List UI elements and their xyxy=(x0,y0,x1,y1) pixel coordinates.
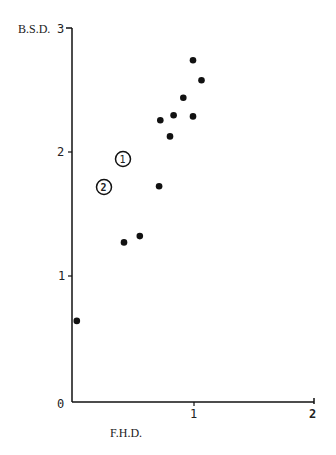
data-point xyxy=(180,94,187,101)
data-point xyxy=(137,233,144,240)
data-points xyxy=(74,57,205,324)
annotation-2: 2 xyxy=(97,180,112,195)
data-point xyxy=(167,133,174,140)
y-tick-label-3: 3 xyxy=(57,22,64,36)
y-tick-label-1: 1 xyxy=(58,269,65,283)
data-point xyxy=(170,112,177,119)
origin-label: 0 xyxy=(57,397,64,411)
svg-text:1: 1 xyxy=(120,154,126,165)
data-point xyxy=(190,57,197,64)
data-point xyxy=(74,318,81,325)
x-axis-label: F.H.D. xyxy=(110,426,142,440)
x-tick-label-1: 1 xyxy=(190,407,197,421)
data-point xyxy=(156,183,163,190)
data-point xyxy=(198,77,205,84)
x-tick-label-2: 2 xyxy=(309,407,316,421)
scatter-chart: 2 1 3 0 1 2 B.S.D. F.H.D. 1 2 xyxy=(0,0,336,455)
data-point xyxy=(190,113,197,120)
svg-text:2: 2 xyxy=(101,182,107,193)
y-axis-label: B.S.D. xyxy=(18,22,50,36)
annotation-1: 1 xyxy=(116,152,131,167)
data-point xyxy=(121,239,128,246)
y-tick-label-2: 2 xyxy=(57,145,64,159)
data-point xyxy=(157,117,164,124)
